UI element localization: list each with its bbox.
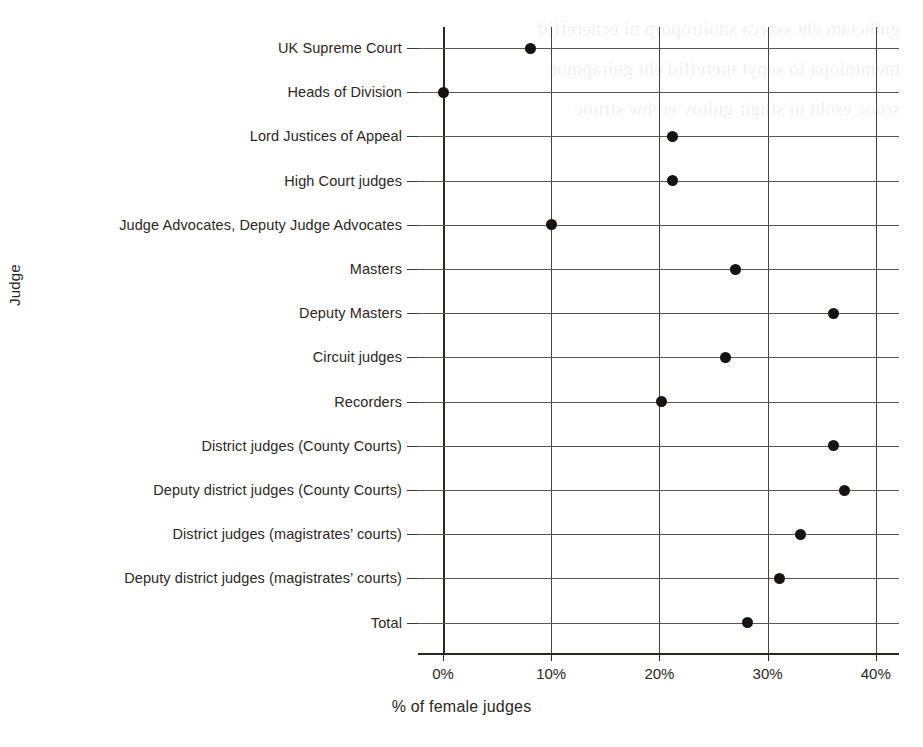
data-point	[774, 573, 785, 584]
y-axis-tick	[407, 402, 418, 403]
category-label: Recorders	[334, 394, 402, 410]
x-axis-tick	[659, 653, 660, 661]
category-label: Total	[371, 615, 402, 631]
x-axis-tick-label: 30%	[753, 665, 783, 682]
category-label: Deputy district judges (magistrates’ cou…	[124, 570, 402, 586]
x-axis-tick-label: 0%	[432, 665, 454, 682]
y-axis-tick	[407, 136, 418, 137]
category-label: Judge Advocates, Deputy Judge Advocates	[119, 217, 402, 233]
x-axis-title: % of female judges	[0, 698, 923, 716]
row-line	[418, 357, 899, 358]
data-point	[667, 131, 678, 142]
data-point	[742, 617, 753, 628]
category-label: Heads of Division	[287, 84, 402, 100]
x-axis-tick	[551, 653, 552, 661]
category-label: Lord Justices of Appeal	[250, 128, 402, 144]
category-label: District judges (County Courts)	[201, 438, 402, 454]
data-point	[828, 308, 839, 319]
y-axis-tick	[407, 181, 418, 182]
row-line	[418, 313, 899, 314]
gridline-x-0	[443, 27, 445, 653]
dot-plot-chart: gnihctam eht ssorca snoitroporp ni ecner…	[0, 0, 923, 747]
gridline-x-20	[659, 27, 660, 653]
row-line	[418, 490, 899, 491]
category-label: Deputy district judges (County Courts)	[153, 482, 402, 498]
y-axis-tick	[407, 92, 418, 93]
row-line	[418, 136, 899, 137]
y-axis-tick	[407, 578, 418, 579]
y-axis-tick	[407, 48, 418, 49]
data-point	[546, 219, 557, 230]
row-line	[418, 269, 899, 270]
row-line	[418, 48, 899, 49]
data-point	[720, 352, 731, 363]
y-axis-tick	[407, 623, 418, 624]
y-axis-tick	[407, 490, 418, 491]
category-label: Circuit judges	[313, 349, 402, 365]
row-line	[418, 225, 899, 226]
data-point	[839, 485, 850, 496]
row-line	[418, 446, 899, 447]
y-axis-tick	[407, 357, 418, 358]
category-label: UK Supreme Court	[278, 40, 402, 56]
plot-area: UK Supreme CourtHeads of DivisionLord Ju…	[418, 27, 899, 653]
data-point	[795, 529, 806, 540]
category-label: District judges (magistrates’ courts)	[172, 526, 402, 542]
y-axis-tick	[407, 534, 418, 535]
gridline-x-10	[551, 27, 552, 653]
row-line	[418, 92, 899, 93]
data-point	[656, 396, 667, 407]
row-line	[418, 623, 899, 624]
category-label: High Court judges	[284, 173, 402, 189]
x-axis-tick-label: 10%	[536, 665, 566, 682]
y-axis-tick	[407, 446, 418, 447]
y-axis-title: Judge	[6, 264, 23, 306]
data-point	[730, 264, 741, 275]
x-axis-tick	[876, 653, 877, 661]
data-point	[525, 43, 536, 54]
category-label: Deputy Masters	[299, 305, 402, 321]
row-line	[418, 534, 899, 535]
row-line	[418, 578, 899, 579]
category-label: Masters	[350, 261, 402, 277]
x-axis-tick-label: 20%	[644, 665, 674, 682]
y-axis-tick	[407, 269, 418, 270]
y-axis-tick	[407, 225, 418, 226]
row-line	[418, 181, 899, 182]
x-axis-tick	[768, 653, 769, 661]
x-axis-tick	[443, 653, 444, 661]
gridline-x-30	[768, 27, 769, 653]
data-point	[667, 175, 678, 186]
data-point	[828, 440, 839, 451]
gridline-x-40	[876, 27, 877, 653]
y-axis-tick	[407, 313, 418, 314]
x-axis-tick-label: 40%	[861, 665, 891, 682]
data-point	[438, 87, 449, 98]
